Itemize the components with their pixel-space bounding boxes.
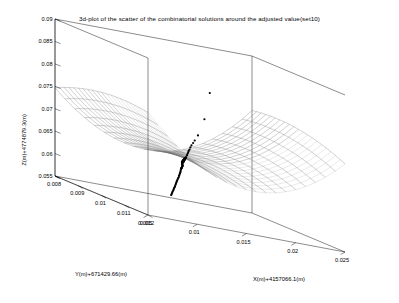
x-tick-label: 0.025 bbox=[335, 257, 349, 263]
scatter-point bbox=[181, 162, 183, 164]
z-tick-label: 0.09 bbox=[42, 16, 53, 22]
x-axis-label: X(m)+4157066.1(m) bbox=[253, 276, 305, 282]
scatter-point bbox=[190, 144, 192, 146]
z-tick-label: 0.08 bbox=[42, 61, 53, 67]
axes-back-walls bbox=[55, 19, 345, 252]
scatter-point bbox=[197, 134, 199, 136]
scatter-point bbox=[183, 159, 185, 161]
axes-frame bbox=[55, 19, 345, 252]
scatter-point bbox=[194, 139, 196, 141]
scatter-point bbox=[203, 118, 205, 120]
z-axis-label: Z(m)+4774879.3(m) bbox=[21, 114, 27, 166]
z-tick-label: 0.055 bbox=[39, 173, 53, 179]
scatter-point bbox=[188, 148, 190, 150]
axis-ticks bbox=[55, 19, 345, 255]
y-tick-label: 0.008 bbox=[47, 181, 61, 187]
x-tick-label: 0.01 bbox=[189, 229, 200, 235]
z-tick-label: 0.085 bbox=[39, 38, 53, 44]
surface-mesh-back bbox=[106, 94, 345, 193]
z-tick-label: 0.075 bbox=[39, 83, 53, 89]
scatter3d-plot: 0.0550.060.0650.070.0750.080.0850.090.00… bbox=[0, 0, 399, 303]
z-tick-label: 0.06 bbox=[42, 151, 53, 157]
scatter-point bbox=[170, 194, 172, 196]
y-tick-label: 0.009 bbox=[70, 190, 84, 196]
y-tick-label: 0.01 bbox=[95, 200, 106, 206]
scatter-point bbox=[189, 146, 191, 148]
scatter-point bbox=[192, 142, 194, 144]
scatter-point bbox=[209, 92, 211, 94]
z-tick-label: 0.065 bbox=[39, 128, 53, 134]
scatter-point bbox=[182, 161, 184, 163]
scatter-point bbox=[181, 165, 183, 167]
x-tick-label: 0.015 bbox=[237, 239, 251, 245]
figure-canvas: 3d-plot of the scatter of the combinator… bbox=[0, 0, 399, 303]
scatter-point bbox=[180, 167, 182, 169]
x-tick-label: 0.02 bbox=[287, 248, 298, 254]
z-tick-label: 0.07 bbox=[42, 106, 53, 112]
y-axis-label: Y(m)+671429.66(m) bbox=[75, 271, 127, 277]
y-tick-label: 0.011 bbox=[117, 210, 131, 216]
y-tick-label: 0.012 bbox=[140, 220, 154, 226]
